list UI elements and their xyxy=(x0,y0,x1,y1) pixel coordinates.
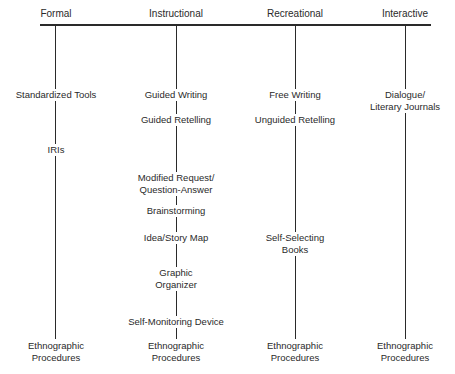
node-label: Idea/Story Map xyxy=(144,232,208,244)
interactive-branch-line xyxy=(405,25,406,339)
node-label-line1: Ethnographic xyxy=(377,340,433,352)
node-label: Standardized Tools xyxy=(16,89,97,101)
node-ethnographic-procedures-interactive: Ethnographic Procedures xyxy=(376,340,434,364)
node-label: Guided Writing xyxy=(145,89,208,101)
node-label-line2: Procedures xyxy=(267,352,323,364)
node-label-line2: Organizer xyxy=(155,279,197,291)
node-free-writing: Free Writing xyxy=(268,89,322,101)
node-brainstorming: Brainstorming xyxy=(146,205,207,217)
node-ethnographic-procedures-formal: Ethnographic Procedures xyxy=(27,340,85,364)
recreational-branch-line xyxy=(295,25,296,339)
node-label-line1: Modified Request/ xyxy=(138,172,215,184)
node-label-line1: Ethnographic xyxy=(148,340,204,352)
heading-instructional: Instructional xyxy=(149,8,203,19)
node-label-line2: Procedures xyxy=(377,352,433,364)
node-standardized-tools: Standardized Tools xyxy=(15,89,98,101)
node-ethnographic-procedures-instructional: Ethnographic Procedures xyxy=(147,340,205,364)
node-graphic-organizer: Graphic Organizer xyxy=(154,267,198,291)
node-unguided-retelling: Unguided Retelling xyxy=(254,114,336,126)
node-label: Brainstorming xyxy=(147,205,206,217)
node-guided-writing: Guided Writing xyxy=(144,89,209,101)
node-label-line2: Books xyxy=(266,244,325,256)
node-iris: IRIs xyxy=(47,144,66,156)
node-label: Self-Monitoring Device xyxy=(128,316,224,328)
node-label-line1: Graphic xyxy=(155,267,197,279)
top-connector-line xyxy=(40,24,431,26)
heading-interactive: Interactive xyxy=(382,8,428,19)
node-label-line2: Question-Answer xyxy=(138,184,215,196)
node-label: IRIs xyxy=(48,144,65,156)
node-label-line1: Ethnographic xyxy=(28,340,84,352)
node-modified-request: Modified Request/ Question-Answer xyxy=(137,172,216,196)
formal-branch-line xyxy=(55,25,56,339)
node-label: Free Writing xyxy=(269,89,321,101)
node-label: Unguided Retelling xyxy=(255,114,335,126)
node-idea-story-map: Idea/Story Map xyxy=(143,232,209,244)
node-guided-retelling: Guided Retelling xyxy=(140,114,212,126)
node-ethnographic-procedures-recreational: Ethnographic Procedures xyxy=(266,340,324,364)
node-label-line1: Ethnographic xyxy=(267,340,323,352)
node-label-line1: Self-Selecting xyxy=(266,232,325,244)
node-label: Guided Retelling xyxy=(141,114,211,126)
node-self-monitoring-device: Self-Monitoring Device xyxy=(127,316,225,328)
node-dialogue-literary-journals: Dialogue/ Literary Journals xyxy=(369,89,441,113)
node-self-selecting-books: Self-Selecting Books xyxy=(265,232,326,256)
node-label-line2: Procedures xyxy=(148,352,204,364)
node-label-line2: Literary Journals xyxy=(370,101,440,113)
heading-formal: Formal xyxy=(40,8,71,19)
heading-recreational: Recreational xyxy=(267,8,323,19)
node-label-line1: Dialogue/ xyxy=(370,89,440,101)
node-label-line2: Procedures xyxy=(28,352,84,364)
